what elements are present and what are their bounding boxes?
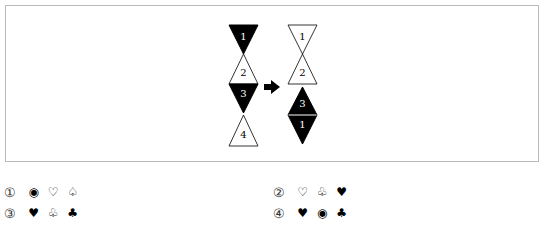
- black-club-icon: ♣: [63, 206, 83, 220]
- black-heart-icon: ♥: [332, 185, 352, 199]
- black-club-icon: ♣: [332, 206, 352, 220]
- option-1[interactable]: ① ◉ ♡ ♤: [4, 184, 83, 200]
- black-heart-icon: ♥: [24, 206, 44, 220]
- fisheye-icon: ◉: [313, 206, 333, 220]
- white-heart-icon: ♡: [44, 185, 64, 199]
- option-2[interactable]: ② ♡ ♧ ♥: [273, 184, 352, 200]
- white-spade-icon: ♤: [63, 185, 83, 199]
- white-club-icon: ♧: [313, 185, 333, 199]
- option-number: ②: [273, 185, 293, 200]
- answer-options: ① ◉ ♡ ♤ ② ♡ ♧ ♥ ③ ♥ ♧ ♣ ④ ♥ ◉ ♣: [0, 0, 545, 225]
- option-number: ③: [4, 206, 24, 221]
- option-4[interactable]: ④ ♥ ◉ ♣: [273, 205, 352, 221]
- black-heart-icon: ♥: [293, 206, 313, 220]
- white-heart-icon: ♡: [293, 185, 313, 199]
- option-number: ①: [4, 185, 24, 200]
- option-number: ④: [273, 206, 293, 221]
- fisheye-icon: ◉: [24, 185, 44, 199]
- white-club-icon: ♧: [44, 206, 64, 220]
- option-3[interactable]: ③ ♥ ♧ ♣: [4, 205, 83, 221]
